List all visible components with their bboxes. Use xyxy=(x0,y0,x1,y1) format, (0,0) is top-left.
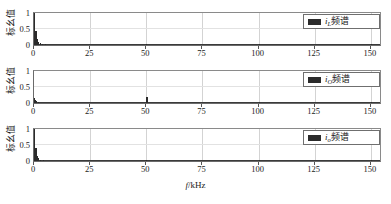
spectrum-figure: 标幺值 1 0.5 0 0255075100125150 iL频谱 标幺值 1 … xyxy=(0,0,391,204)
subplot-il: 标幺值 1 0.5 0 0255075100125150 iL频谱 xyxy=(0,4,391,62)
x-tick-label: 25 xyxy=(85,107,94,116)
y-tick-1: 1 xyxy=(6,9,30,18)
legend-swatch-icon xyxy=(308,135,321,141)
x-tick-label: 125 xyxy=(307,107,320,116)
x-tick-label: 50 xyxy=(141,107,150,116)
spectrum-peak xyxy=(259,102,260,103)
spectrum-peak xyxy=(40,160,41,161)
spectrum-peak xyxy=(45,44,46,45)
spectrum-peak xyxy=(371,160,372,161)
x-tick-label: 50 xyxy=(141,49,150,58)
legend-label-il: iL频谱 xyxy=(325,17,349,26)
x-axis-ticks-io-small: 0255075100125150 xyxy=(33,162,381,176)
x-axis-ticks-il: 0255075100125150 xyxy=(33,46,381,60)
noise-floor xyxy=(34,160,380,161)
spectrum-peak xyxy=(42,44,43,45)
spectrum-peak xyxy=(40,43,41,45)
x-axis-title: f/kHz xyxy=(0,181,391,190)
x-tick-label: 25 xyxy=(85,165,94,174)
legend-io-small: io频谱 xyxy=(303,130,380,145)
legend-suffix: 频谱 xyxy=(332,74,350,84)
legend-suffix: 频谱 xyxy=(331,16,349,26)
legend-swatch-icon xyxy=(308,77,321,83)
x-tick-label: 100 xyxy=(251,49,264,58)
legend-label-io-small: io频谱 xyxy=(325,133,349,142)
spectrum-peak xyxy=(43,160,44,161)
x-tick-label: 100 xyxy=(251,165,264,174)
x-axis-ticks-io-capital: 0255075100125150 xyxy=(33,104,381,118)
spectrum-peak xyxy=(146,44,147,45)
legend-suffix: 频谱 xyxy=(331,132,349,142)
y-axis-ticks: 1 0.5 0 xyxy=(4,4,30,46)
spectrum-peak xyxy=(371,44,372,45)
y-tick-1: 1 xyxy=(6,125,30,134)
y-tick-0: 0 xyxy=(6,41,30,50)
y-axis-ticks: 1 0.5 0 xyxy=(4,120,30,162)
legend-label-io-capital: iO频谱 xyxy=(325,75,350,84)
x-tick-label: 150 xyxy=(363,107,376,116)
noise-floor xyxy=(34,44,380,45)
y-axis-ticks: 1 0.5 0 xyxy=(4,62,30,104)
x-tick-label: 0 xyxy=(31,49,35,58)
spectrum-peak xyxy=(371,102,372,103)
x-tick-label: 0 xyxy=(31,107,35,116)
y-tick-0: 0 xyxy=(6,99,30,108)
spectrum-peak xyxy=(146,160,147,161)
x-tick-label: 75 xyxy=(197,107,206,116)
x-tick-label: 50 xyxy=(141,165,150,174)
y-tick-05: 0.5 xyxy=(6,83,30,92)
noise-floor xyxy=(34,102,380,103)
spectrum-peak xyxy=(38,102,39,103)
spectrum-peak xyxy=(259,44,260,45)
x-tick-label: 75 xyxy=(197,49,206,58)
x-tick-label: 0 xyxy=(31,165,35,174)
legend-il: iL频谱 xyxy=(303,14,380,29)
legend-subscript: O xyxy=(328,78,333,85)
legend-swatch-icon xyxy=(308,19,321,25)
spectrum-peak xyxy=(259,160,260,161)
legend-io-capital: iO频谱 xyxy=(303,72,380,87)
legend-subscript: L xyxy=(328,20,332,27)
spectrum-peak xyxy=(38,158,39,161)
legend-subscript: o xyxy=(328,136,331,143)
y-tick-05: 0.5 xyxy=(6,25,30,34)
subplot-io-capital: 标幺值 1 0.5 0 0255075100125150 iO频谱 xyxy=(0,62,391,120)
x-tick-label: 75 xyxy=(197,165,206,174)
y-tick-1: 1 xyxy=(6,67,30,76)
x-tick-label: 125 xyxy=(307,49,320,58)
y-tick-0: 0 xyxy=(6,157,30,166)
x-tick-label: 100 xyxy=(251,107,264,116)
spectrum-peak xyxy=(146,97,147,103)
y-tick-05: 0.5 xyxy=(6,141,30,150)
x-tick-label: 150 xyxy=(363,49,376,58)
subplot-io-small: 标幺值 1 0.5 0 0255075100125150 io频谱 xyxy=(0,120,391,178)
x-tick-label: 25 xyxy=(85,49,94,58)
x-tick-label: 125 xyxy=(307,165,320,174)
x-tick-label: 150 xyxy=(363,165,376,174)
x-axis-title-unit: /kHz xyxy=(188,180,206,190)
